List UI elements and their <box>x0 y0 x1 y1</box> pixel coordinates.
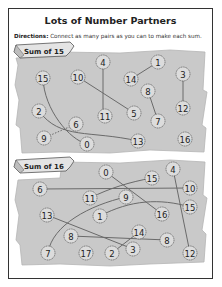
number-circle[interactable]: 1 <box>93 209 107 223</box>
number-circle[interactable]: 9 <box>119 190 133 204</box>
number-value: 9 <box>123 193 128 203</box>
number-circle[interactable]: 4 <box>166 162 180 176</box>
banner-label: Sum of 16 <box>24 163 64 171</box>
number-circle[interactable]: 7 <box>41 246 55 260</box>
number-circle[interactable]: 12 <box>183 246 197 260</box>
number-value: 7 <box>45 249 50 259</box>
number-value: 0 <box>84 140 89 150</box>
number-value: 3 <box>130 245 135 255</box>
number-value: 2 <box>36 107 41 117</box>
number-circle[interactable]: 2 <box>32 104 46 118</box>
number-value: 11 <box>100 112 111 122</box>
number-circle[interactable]: 12 <box>176 101 190 115</box>
number-value: 12 <box>185 249 196 259</box>
number-value: 11 <box>85 194 96 204</box>
number-circle[interactable]: 5 <box>127 106 141 120</box>
number-value: 10 <box>73 73 84 83</box>
number-circle[interactable]: 16 <box>155 207 169 221</box>
number-circle[interactable]: 6 <box>33 182 47 196</box>
number-value: 17 <box>81 249 92 259</box>
number-circle[interactable]: 17 <box>79 246 93 260</box>
number-value: 10 <box>185 184 196 194</box>
number-value: 16 <box>157 210 168 220</box>
number-value: 13 <box>133 137 144 147</box>
number-value: 15 <box>185 203 196 213</box>
number-circle[interactable]: 6 <box>69 117 83 131</box>
number-value: 3 <box>180 70 185 80</box>
puzzle-board: Sum of 15 151041413812115726901316 Sum o… <box>0 0 222 287</box>
number-circle[interactable]: 10 <box>183 181 197 195</box>
number-circle[interactable]: 10 <box>71 70 85 84</box>
number-circle[interactable]: 8 <box>160 233 174 247</box>
number-value: 13 <box>42 211 53 221</box>
number-circle[interactable]: 15 <box>183 200 197 214</box>
number-value: 0 <box>103 168 108 178</box>
number-value: 9 <box>41 134 46 144</box>
number-value: 8 <box>68 232 73 242</box>
number-circle[interactable]: 13 <box>131 134 145 148</box>
number-circle[interactable]: 0 <box>99 165 113 179</box>
number-circle[interactable]: 11 <box>83 191 97 205</box>
number-value: 4 <box>100 58 105 68</box>
section-sum-15: Sum of 15 151041413812115726901316 <box>14 42 207 153</box>
banner-sum-15: Sum of 15 <box>14 42 74 58</box>
number-value: 15 <box>147 174 158 184</box>
number-value: 7 <box>155 117 160 127</box>
number-value: 16 <box>180 135 191 145</box>
number-circle[interactable]: 8 <box>141 84 155 98</box>
number-circle[interactable]: 14 <box>132 225 146 239</box>
number-value: 8 <box>164 236 169 246</box>
number-value: 6 <box>73 120 78 130</box>
section-sum-16: Sum of 16 0154610119151311614883717212 <box>14 157 207 266</box>
number-circle[interactable]: 13 <box>40 208 54 222</box>
number-value: 4 <box>170 165 175 175</box>
number-value: 1 <box>155 58 160 68</box>
number-value: 6 <box>37 185 42 195</box>
banner-sum-16: Sum of 16 <box>14 157 74 173</box>
number-circle[interactable]: 3 <box>126 242 140 256</box>
number-circle[interactable]: 4 <box>96 55 110 69</box>
number-value: 14 <box>126 75 137 85</box>
number-circle[interactable]: 14 <box>124 72 138 86</box>
number-circle[interactable]: 15 <box>36 71 50 85</box>
number-circle[interactable]: 7 <box>151 114 165 128</box>
number-circle[interactable]: 2 <box>105 246 119 260</box>
number-circle[interactable]: 16 <box>178 132 192 146</box>
number-value: 15 <box>38 74 49 84</box>
number-value: 2 <box>109 249 114 259</box>
number-value: 14 <box>134 228 145 238</box>
number-circle[interactable]: 0 <box>80 137 94 151</box>
number-circle[interactable]: 15 <box>145 171 159 185</box>
number-circle[interactable]: 8 <box>64 229 78 243</box>
number-circle[interactable]: 11 <box>98 109 112 123</box>
banner-label: Sum of 15 <box>24 48 64 56</box>
number-value: 5 <box>131 109 136 119</box>
number-value: 8 <box>145 87 150 97</box>
number-value: 12 <box>178 104 189 114</box>
number-circle[interactable]: 9 <box>37 131 51 145</box>
number-circle[interactable]: 1 <box>151 55 165 69</box>
number-circle[interactable]: 3 <box>176 67 190 81</box>
number-value: 1 <box>97 212 102 222</box>
